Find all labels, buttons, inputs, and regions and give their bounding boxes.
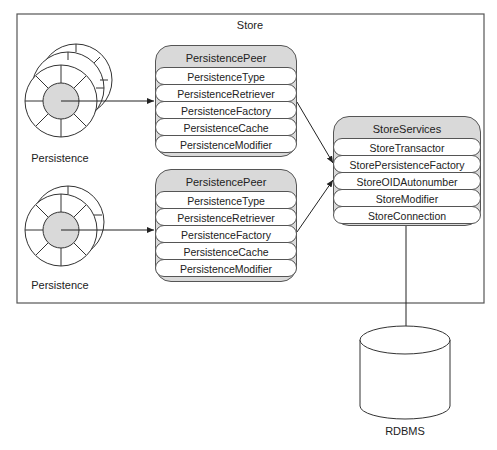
services-item: StorePersistenceFactory [333,155,481,173]
services-item: StoreTransactor [333,138,481,156]
peer-item: PersistenceRetriever [155,84,297,102]
services-title: StoreServices [334,120,480,138]
persistence-peer-box: PersistencePeer PersistenceType Persiste… [155,45,297,157]
store-label: Store [230,19,270,31]
services-item: StoreConnection [333,206,481,224]
persistence-label: Persistence [20,279,100,291]
peer-title: PersistencePeer [156,49,296,67]
persistence-label: Persistence [20,152,100,164]
store-services-box: StoreServices StoreTransactor StorePersi… [333,116,481,226]
peer-item: PersistenceCache [155,242,297,260]
services-item: StoreOIDAutonumber [333,172,481,190]
arrow-peer-to-services [297,102,333,163]
peer-item: PersistenceFactory [155,225,297,243]
peer-item: PersistenceType [155,191,297,209]
rdbms-label: RDBMS [380,425,430,437]
peer-item: PersistenceType [155,67,297,85]
peer-item: PersistenceCache [155,118,297,136]
peer-item: PersistenceModifier [155,259,297,277]
services-item: StoreModifier [333,189,481,207]
database-icon [360,326,450,419]
arrow-peer-to-services [297,180,333,232]
peer-title: PersistencePeer [156,173,296,191]
persistence-peer-box: PersistencePeer PersistenceType Persiste… [155,169,297,282]
persistence-wheel-icon [25,186,104,266]
persistence-wheel-icon [25,44,112,137]
peer-item: PersistenceRetriever [155,208,297,226]
peer-item: PersistenceFactory [155,101,297,119]
peer-item: PersistenceModifier [155,135,297,153]
